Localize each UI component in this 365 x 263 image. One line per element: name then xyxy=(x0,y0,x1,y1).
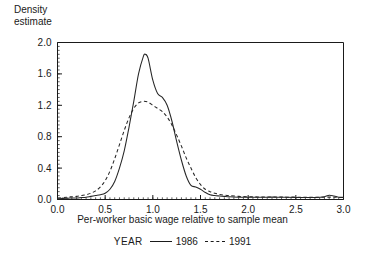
legend-label-1986: 1986 xyxy=(176,236,198,247)
svg-text:1.5: 1.5 xyxy=(194,204,208,214)
svg-text:3.0: 3.0 xyxy=(337,204,351,214)
chart-legend: YEAR 1986 1991 xyxy=(0,236,365,247)
svg-text:0.0: 0.0 xyxy=(51,204,65,214)
x-axis-label: Per-worker basic wage relative to sample… xyxy=(0,214,365,225)
legend-line-dashed-icon xyxy=(205,241,225,243)
svg-text:2.0: 2.0 xyxy=(241,204,255,214)
svg-text:1.2: 1.2 xyxy=(38,100,52,111)
svg-text:0.0: 0.0 xyxy=(38,194,52,205)
curve-1991 xyxy=(58,101,344,198)
data-curves xyxy=(58,54,344,199)
svg-text:0.5: 0.5 xyxy=(98,204,112,214)
curve-1986 xyxy=(58,54,344,199)
axes-frame xyxy=(58,43,344,200)
density-estimate-chart: Density estimate 0.00.51.01.52.02.53.00.… xyxy=(0,0,365,263)
legend-line-solid-icon xyxy=(150,241,172,243)
svg-text:0.8: 0.8 xyxy=(38,131,52,142)
y-axis-label-line1: Density xyxy=(14,4,47,15)
major-tick-marks xyxy=(58,43,344,200)
legend-label-1991: 1991 xyxy=(229,236,251,247)
legend-title: YEAR xyxy=(114,236,143,247)
y-axis-label-line2: estimate xyxy=(14,16,52,27)
plot-area: 0.00.51.01.52.02.53.00.00.40.81.21.62.0 xyxy=(0,0,365,213)
svg-text:2.0: 2.0 xyxy=(38,37,52,48)
legend-row: YEAR 1986 1991 xyxy=(114,236,251,247)
legend-entry-1986: 1986 xyxy=(150,236,198,247)
minor-tick-marks xyxy=(58,43,344,200)
svg-text:2.5: 2.5 xyxy=(289,204,303,214)
y-axis-label: Density estimate xyxy=(14,4,52,27)
svg-text:1.0: 1.0 xyxy=(146,204,160,214)
svg-text:0.4: 0.4 xyxy=(38,163,52,174)
legend-entry-1991: 1991 xyxy=(205,236,251,247)
svg-text:1.6: 1.6 xyxy=(38,68,52,79)
axis-frame-path xyxy=(58,43,344,200)
